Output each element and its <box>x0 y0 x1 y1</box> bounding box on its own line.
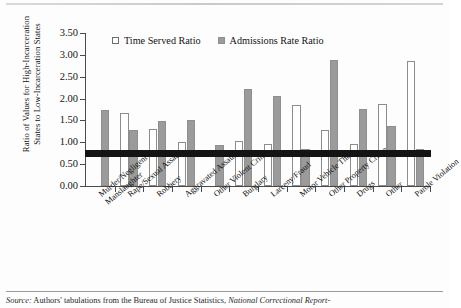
legend-label-admissions-rate: Admissions Rate Ratio <box>230 35 324 46</box>
source-publication: National Correctional Report- <box>228 296 330 305</box>
bar-admissions-rate <box>273 96 282 186</box>
source-text: Authors' tabulations from the Bureau of … <box>32 296 228 305</box>
bar-chart: Ratio of Values for High-Incarceration S… <box>0 8 449 286</box>
filled-square-icon <box>218 37 225 44</box>
y-tick-label: 1.00 <box>38 137 78 147</box>
y-tick-label: 3.00 <box>38 50 78 60</box>
bottom-divider <box>6 291 443 292</box>
source-note: Source: Authors' tabulations from the Bu… <box>6 296 446 306</box>
y-tick-label: 3.50 <box>38 28 78 38</box>
open-square-icon <box>112 37 119 44</box>
y-tick-label: 1.50 <box>38 115 78 125</box>
y-tick-label: 2.50 <box>38 72 78 82</box>
legend-item-time-served: Time Served Ratio <box>112 35 201 46</box>
y-tick-label: 0.50 <box>38 159 78 169</box>
source-prefix: Source: <box>6 296 32 305</box>
bar-time-served <box>407 61 416 186</box>
x-axis-labels: Murder/NegligentManslaughterRape/Sexual … <box>0 186 449 286</box>
chart-legend: Time Served Ratio Admissions Rate Ratio <box>112 35 324 46</box>
y-axis-title-line2: States to Low-Incarceration States <box>32 23 44 145</box>
legend-label-time-served: Time Served Ratio <box>124 35 201 46</box>
y-axis-title-line1: Ratio of Values for High-Incarceration <box>21 16 33 152</box>
legend-item-admissions-rate: Admissions Rate Ratio <box>218 35 324 46</box>
y-tick-label: 2.00 <box>38 94 78 104</box>
y-axis-title: Ratio of Values for High-Incarceration S… <box>14 0 50 179</box>
top-divider <box>6 3 443 5</box>
bar-admissions-rate <box>101 110 110 187</box>
